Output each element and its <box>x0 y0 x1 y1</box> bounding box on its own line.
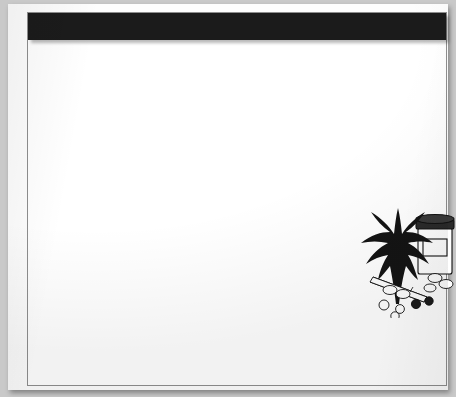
line-chart <box>32 66 440 356</box>
cannabis-leaf-and-pill-bottle-illustration <box>332 206 456 318</box>
scanned-page-background <box>0 0 456 397</box>
title-bar <box>28 13 446 40</box>
document-paper <box>8 4 448 390</box>
source-note <box>158 356 440 367</box>
